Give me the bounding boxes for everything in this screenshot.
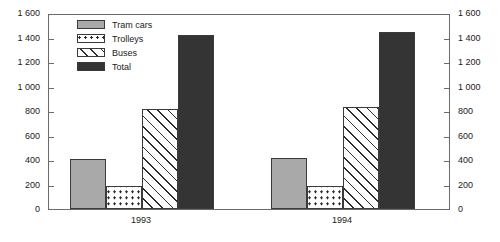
- legend-item-total[interactable]: Total: [77, 61, 152, 72]
- bar-trolleys-1994: [307, 186, 343, 209]
- y-tick-label-right: 1 400: [458, 33, 481, 43]
- legend-label-total: Total: [112, 62, 131, 72]
- y-tick-label-left: 1 200: [17, 57, 40, 67]
- legend-label-tram-cars: Tram cars: [112, 20, 152, 30]
- bar-total-1993: [178, 35, 214, 209]
- bar-chart: 002002004004006006008008001 0001 0001 20…: [0, 0, 500, 242]
- legend-item-buses[interactable]: Buses: [77, 47, 152, 58]
- y-tick-label-left: 1 400: [17, 33, 40, 43]
- y-tick-label-right: 400: [458, 155, 473, 165]
- bar-total-1994: [379, 32, 415, 209]
- legend-label-trolleys: Trolleys: [112, 34, 143, 44]
- y-tick-label-left: 400: [25, 155, 40, 165]
- chart-legend: Tram carsTrolleysBusesTotal: [77, 19, 152, 72]
- x-axis-label-1994: 1994: [332, 215, 352, 225]
- y-tick-label-right: 1 000: [458, 82, 481, 92]
- y-tick-label-right: 1 600: [458, 8, 481, 18]
- y-tick-label-left: 1 000: [17, 82, 40, 92]
- legend-item-trolleys[interactable]: Trolleys: [77, 33, 152, 44]
- y-tick-label-left: 800: [25, 106, 40, 116]
- y-tick-label-right: 200: [458, 180, 473, 190]
- y-tick-label-right: 800: [458, 106, 473, 116]
- legend-swatch-trolleys-icon: [77, 34, 105, 43]
- y-tick-label-left: 600: [25, 131, 40, 141]
- legend-label-buses: Buses: [112, 48, 137, 58]
- y-tick-label-left: 0: [35, 204, 40, 214]
- bar-tram-cars-1994: [271, 158, 307, 209]
- legend-swatch-total-icon: [77, 62, 105, 71]
- bar-buses-1993: [142, 109, 178, 209]
- y-tick-label-left: 200: [25, 180, 40, 190]
- bar-tram-cars-1993: [70, 159, 106, 209]
- plot-area: 002002004004006006008008001 0001 0001 20…: [48, 14, 450, 210]
- y-tick-label-left: 1 600: [17, 8, 40, 18]
- y-tick-label-right: 600: [458, 131, 473, 141]
- y-tick-label-right: 1 200: [458, 57, 481, 67]
- bar-buses-1994: [343, 107, 379, 209]
- y-tick-label-right: 0: [458, 204, 463, 214]
- legend-item-tram-cars[interactable]: Tram cars: [77, 19, 152, 30]
- bar-trolleys-1993: [106, 186, 142, 209]
- legend-swatch-buses-icon: [77, 48, 105, 57]
- x-axis-label-1993: 1993: [131, 215, 151, 225]
- legend-swatch-tram-cars-icon: [77, 20, 105, 29]
